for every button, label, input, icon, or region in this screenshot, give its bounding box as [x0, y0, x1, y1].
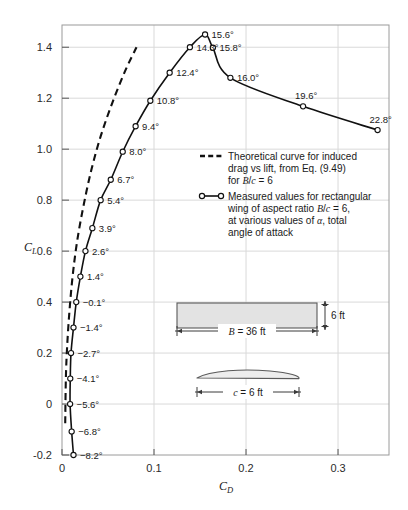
- data-point-marker: [375, 127, 380, 132]
- alpha-label: 1.4°: [87, 271, 104, 282]
- alpha-label: −8.2°: [80, 450, 103, 461]
- alpha-label: 8.0°: [129, 146, 146, 157]
- legend-theoretical-line-1: Theoretical curve for induced: [228, 151, 357, 162]
- alpha-label: 15.8°: [219, 42, 241, 53]
- y-tick-label: 1.0: [37, 143, 52, 155]
- data-point-marker: [120, 149, 125, 154]
- y-tick-label: 0.6: [37, 245, 52, 257]
- data-point-marker: [228, 75, 233, 80]
- data-point-marker: [74, 299, 79, 304]
- alpha-label: 19.6°: [295, 90, 317, 101]
- data-point-marker: [202, 32, 207, 37]
- x-axis-tick-labels: 00.10.20.3: [59, 462, 346, 474]
- alpha-label: −1.4°: [80, 322, 103, 333]
- planform-chord-label: 6 ft: [331, 310, 345, 321]
- alpha-label: 16.0°: [237, 72, 259, 83]
- data-point-marker: [78, 274, 83, 279]
- legend-measured-line-3: at various values of α, total: [228, 215, 347, 226]
- data-point-marker: [187, 45, 192, 50]
- airfoil-chord-label: c = 6 ft: [233, 387, 263, 398]
- alpha-label: −6.8°: [78, 426, 101, 437]
- alpha-label: −5.6°: [77, 399, 100, 410]
- data-point-marker: [90, 226, 95, 231]
- legend-measured-line-4: angle of attack: [228, 227, 294, 238]
- y-tick-label: -0.2: [33, 449, 52, 461]
- y-tick-label: 1.4: [37, 41, 52, 53]
- alpha-label: −4.1°: [77, 373, 100, 384]
- x-tick-label: 0: [59, 462, 65, 474]
- figure-container: 00.10.20.3 -0.200.20.40.60.81.01.21.4 CD…: [0, 0, 408, 510]
- data-point-marker: [148, 98, 153, 103]
- y-axis-title: CL: [24, 240, 37, 256]
- y-tick-label: 1.2: [37, 92, 52, 104]
- data-point-marker: [68, 350, 73, 355]
- y-tick-label: 0.4: [37, 296, 52, 308]
- x-axis-title: CD: [219, 479, 234, 495]
- alpha-label: −0.1°: [83, 297, 106, 308]
- alpha-label: 22.8°: [370, 114, 392, 125]
- data-point-marker: [68, 401, 73, 406]
- alpha-label: 9.4°: [142, 121, 159, 132]
- x-tick-label: 0.2: [238, 462, 253, 474]
- alpha-label: 3.9°: [99, 223, 116, 234]
- alpha-label: 6.7°: [117, 174, 134, 185]
- alpha-label: 12.4°: [176, 67, 198, 78]
- alpha-label: 5.4°: [107, 195, 124, 206]
- data-point-marker: [300, 104, 305, 109]
- data-point-marker: [71, 452, 76, 457]
- alpha-label: 15.6°: [212, 29, 234, 40]
- data-point-marker: [69, 429, 74, 434]
- legend-theoretical-line-3: for B/c = 6: [228, 175, 273, 186]
- data-point-marker: [98, 198, 103, 203]
- data-point-marker: [108, 177, 113, 182]
- data-point-marker: [133, 124, 138, 129]
- legend-measured-line-1: Measured values for rectangular: [228, 191, 372, 202]
- y-tick-label: 0.8: [37, 194, 52, 206]
- alpha-label: −2.7°: [78, 348, 101, 359]
- alpha-label: 14.3°: [196, 42, 218, 53]
- legend-measured-line-2: wing of aspect ratio B/c = 6,: [227, 203, 350, 214]
- x-tick-label: 0.3: [330, 462, 345, 474]
- x-tick-label: 0.1: [146, 462, 161, 474]
- data-point-marker: [167, 70, 172, 75]
- y-tick-label: 0.2: [37, 347, 52, 359]
- legend-theoretical-line-2: drag vs lift, from Eq. (9.49): [228, 163, 346, 174]
- planform-span-label: B = 36 ft: [229, 326, 266, 337]
- alpha-label: 2.6°: [92, 246, 109, 257]
- alpha-label: 10.8°: [157, 95, 179, 106]
- y-tick-label: 0: [46, 398, 52, 410]
- cl-vs-cd-chart: 00.10.20.3 -0.200.20.40.60.81.01.21.4 CD…: [0, 0, 408, 510]
- data-point-marker: [68, 376, 73, 381]
- data-point-marker: [71, 325, 76, 330]
- data-point-marker: [83, 249, 88, 254]
